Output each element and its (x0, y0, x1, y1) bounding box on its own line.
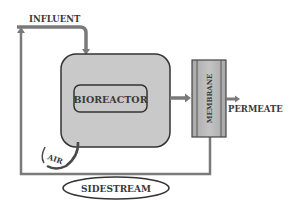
bioreactor-label: BIOREACTOR (73, 94, 147, 105)
permeate-label: PERMEATE (228, 104, 283, 114)
influent-label: INFLUENT (29, 14, 81, 24)
membrane-label: MEMBRANE (205, 74, 214, 124)
mbr-process-diagram: INFLUENT BIOREACTOR MEMBRANE PERMEATE AI… (0, 0, 295, 211)
air-label: AIR (45, 152, 64, 166)
permeate-arrow (226, 96, 240, 103)
influent-pipe (17, 27, 90, 55)
reactor-to-membrane-arrow (170, 94, 191, 103)
sidestream-label: SIDESTREAM (81, 184, 151, 194)
